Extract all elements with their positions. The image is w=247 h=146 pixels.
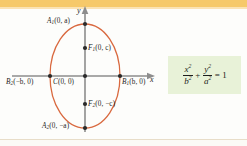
point-focus-lower [83,102,87,106]
ellipse-standard-equation: x2 b2 + y2 a2 = 1 [182,64,226,85]
label-focus-upper-coords: (0, c) [95,44,111,52]
bottom-margin [0,140,247,146]
point-vertex-top [83,22,87,26]
label-covertex-right: B1(b, 0) [122,78,145,86]
point-vertex-bottom [83,126,87,130]
label-center-coords: (0, 0) [58,78,74,86]
label-covertex-left: B2(−b, 0) [6,78,34,86]
label-focus-lower-coords: (0, −c) [95,100,115,108]
point-covertex-left [48,74,52,78]
label-covertex-left-coords: (−b, 0) [13,78,33,86]
equation-operator: + [195,70,200,80]
point-center [83,74,87,78]
equation-term-1-denominator: b2 [183,76,193,86]
x-axis-label: x [150,75,154,84]
equation-term-2: y2 a2 [202,64,212,85]
equation-callout: x2 b2 + y2 a2 = 1 [168,56,241,94]
y-axis-label: y [77,6,81,15]
label-center: C(0, 0) [53,78,74,86]
label-focus-upper: F1(0, c) [88,44,111,52]
equation-term-1: x2 b2 [183,64,193,85]
y-axis-arrowhead [82,6,89,14]
equation-equals: = 1 [215,70,227,80]
equation-term-1-den-exp: 2 [189,75,192,81]
equation-term-2-denominator: a2 [202,76,212,86]
figure-page: y x A1(0, a) F1(0, c) B2(−b, 0) C(0, 0) … [0,0,247,146]
point-focus-upper [83,46,87,50]
equation-term-2-den-exp: 2 [208,75,211,81]
label-covertex-right-coords: (b, 0) [129,78,145,86]
label-vertex-bottom-coords: (0, −a) [49,122,69,130]
label-focus-lower: F2(0, −c) [88,100,115,108]
equation-term-2-num-exp: 2 [208,63,211,69]
label-vertex-bottom: A2(0, −a) [42,122,69,130]
equation-term-1-num-exp: 2 [189,63,192,69]
label-vertex-top-coords: (0, a) [54,17,70,25]
label-vertex-top: A1(0, a) [47,17,70,25]
